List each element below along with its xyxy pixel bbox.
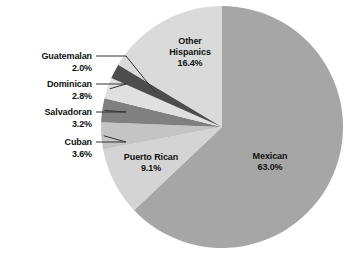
slice-label-other-hispanics-line1: Other — [178, 36, 202, 46]
slice-label-other-hispanics: Other Hispanics 16.4% — [152, 36, 228, 69]
slice-label-puerto-rican: Puerto Rican 9.1% — [112, 152, 190, 174]
callout-label-cuban-name: Cuban — [65, 137, 93, 147]
callout-label-dominican-name: Dominican — [47, 79, 92, 89]
slice-label-other-hispanics-line2: Hispanics — [169, 47, 211, 57]
slice-label-puerto-rican-value: 9.1% — [141, 163, 161, 173]
slice-label-puerto-rican-name: Puerto Rican — [124, 152, 178, 162]
callout-label-cuban: Cuban 3.6% — [4, 137, 92, 160]
pie-chart-figure: Mexican 63.0% Puerto Rican 9.1% Other Hi… — [0, 0, 351, 263]
callout-label-guatemalan-value: 2.0% — [4, 63, 92, 75]
callout-label-dominican: Dominican 2.8% — [4, 79, 92, 102]
callout-label-cuban-value: 3.6% — [4, 149, 92, 161]
slice-label-mexican-value: 63.0% — [257, 162, 282, 172]
callout-label-salvadoran-value: 3.2% — [4, 119, 92, 131]
callout-label-salvadoran: Salvadoran 3.2% — [4, 107, 92, 130]
slice-label-mexican: Mexican 63.0% — [233, 151, 307, 173]
callout-label-salvadoran-name: Salvadoran — [44, 107, 92, 117]
callout-label-guatemalan: Guatemalan 2.0% — [4, 51, 92, 74]
callout-label-guatemalan-name: Guatemalan — [41, 51, 92, 61]
slice-label-mexican-name: Mexican — [253, 151, 288, 161]
slice-label-other-hispanics-value: 16.4% — [177, 58, 202, 68]
callout-label-dominican-value: 2.8% — [4, 91, 92, 103]
